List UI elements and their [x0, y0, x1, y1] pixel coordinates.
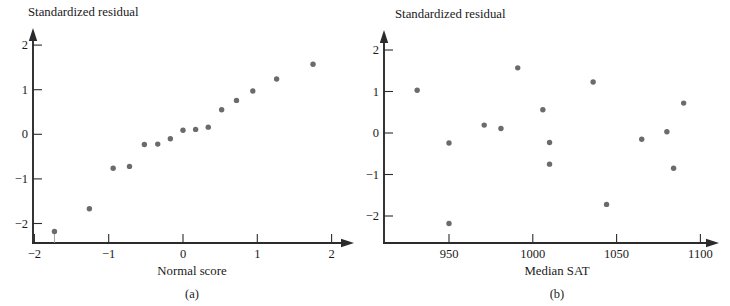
x-tick-label: 1000: [520, 248, 545, 261]
data-point: [540, 107, 545, 112]
data-point: [168, 136, 173, 141]
x-tick-label: 1: [254, 248, 260, 261]
y-tick-label: 0: [22, 128, 28, 141]
panel-b: Standardized residual Median SAT (b) −2−…: [365, 0, 730, 306]
x-tick-label: −1: [102, 248, 115, 261]
x-axis-title-a: Normal score: [157, 265, 226, 278]
panel-caption-b: (b): [550, 288, 565, 301]
data-point: [234, 98, 239, 103]
y-axis-title-a: Standardized residual: [28, 6, 139, 19]
panel-caption-a: (a): [185, 288, 199, 301]
data-point: [155, 141, 160, 146]
data-point: [250, 88, 255, 93]
data-point: [414, 88, 419, 93]
data-point: [127, 164, 132, 169]
panel-b-plot-area: [365, 0, 730, 306]
data-point: [590, 79, 595, 84]
panel-a: Standardized residual Normal score (a) −…: [0, 0, 365, 306]
data-point: [446, 140, 451, 145]
y-tick-label: −2: [15, 217, 28, 230]
data-point: [681, 100, 686, 105]
y-tick-label: 1: [373, 85, 379, 98]
data-point: [498, 126, 503, 131]
residual-plot-figure: Standardized residual Normal score (a) −…: [0, 0, 730, 306]
data-point: [547, 140, 552, 145]
y-tick-label: 2: [373, 44, 379, 57]
data-point: [219, 107, 224, 112]
x-tick-label: 950: [440, 248, 459, 261]
data-point: [515, 65, 520, 70]
data-point: [664, 129, 669, 134]
x-tick-label: 1050: [604, 248, 629, 261]
x-tick-label: 1100: [688, 248, 713, 261]
y-tick-label: 0: [373, 127, 379, 140]
data-point: [142, 142, 147, 147]
data-point: [180, 128, 185, 133]
y-tick-label: 1: [22, 83, 28, 96]
data-point: [52, 229, 57, 234]
data-point: [193, 127, 198, 132]
y-tick-label: −2: [366, 210, 379, 223]
y-axis-title-b: Standardized residual: [395, 8, 506, 21]
data-point: [639, 137, 644, 142]
y-tick-label: −1: [15, 173, 28, 186]
data-point: [110, 165, 115, 170]
data-point: [481, 122, 486, 127]
x-tick-label: −2: [28, 248, 41, 261]
data-point: [206, 124, 211, 129]
x-axis-title-b: Median SAT: [524, 265, 589, 278]
data-point: [310, 62, 315, 67]
data-point: [274, 76, 279, 81]
x-tick-label: 0: [180, 248, 186, 261]
data-point: [446, 221, 451, 226]
data-point: [87, 206, 92, 211]
data-point: [671, 166, 676, 171]
data-point: [604, 202, 609, 207]
y-tick-label: −1: [366, 168, 379, 181]
y-tick-label: 2: [22, 39, 28, 52]
data-point: [547, 161, 552, 166]
x-tick-label: 2: [328, 248, 334, 261]
